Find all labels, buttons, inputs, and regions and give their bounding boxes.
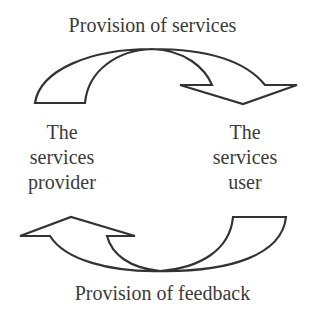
provider-line-2: services — [22, 145, 102, 170]
user-line-3: user — [210, 170, 280, 195]
user-line-1: The — [210, 120, 280, 145]
feedback-arrow-icon — [20, 217, 286, 271]
services-arrow-icon — [35, 49, 297, 104]
user-line-2: services — [210, 145, 280, 170]
provider-line-1: The — [22, 120, 102, 145]
services-provider-node: The services provider — [22, 120, 102, 195]
services-user-node: The services user — [210, 120, 280, 195]
provision-of-feedback-label: Provision of feedback — [6, 282, 313, 305]
provider-line-3: provider — [22, 170, 102, 195]
